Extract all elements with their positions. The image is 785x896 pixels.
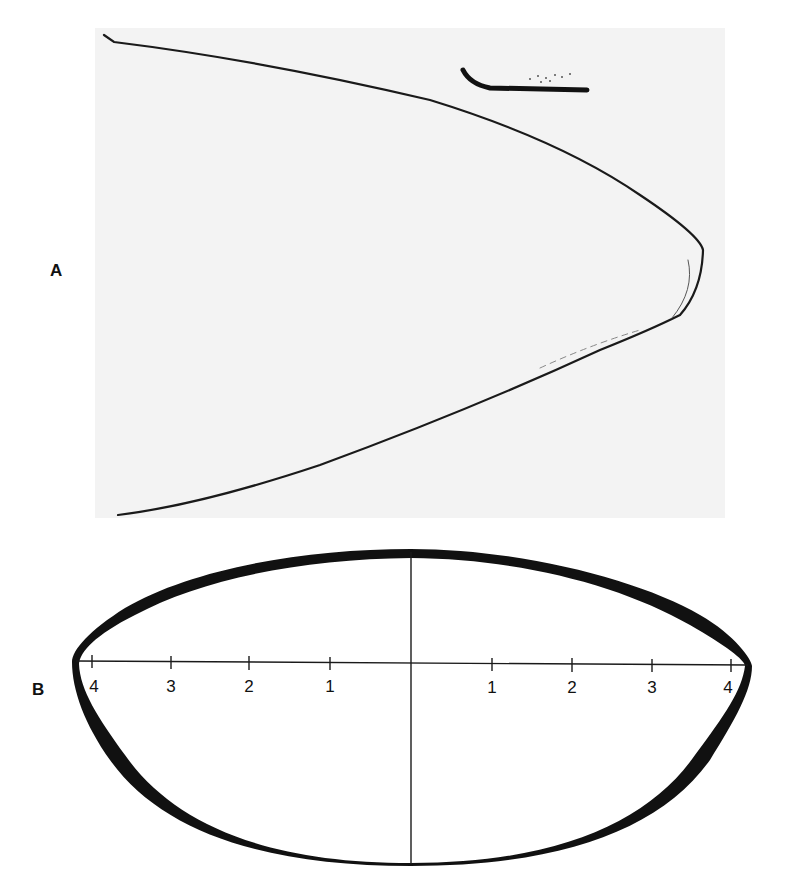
tick-label-left-3: 3 (166, 677, 175, 696)
tick-label-left-4: 4 (89, 677, 98, 696)
tick-label-right-2: 2 (567, 678, 576, 697)
panel-a-mark (463, 70, 587, 90)
tick-label-right-4: 4 (723, 678, 732, 697)
panel-a-mark-speckles (529, 73, 571, 83)
tick-label-left-2: 2 (244, 677, 253, 696)
panel-a-curve (104, 35, 703, 515)
panel-b-outline (72, 549, 752, 866)
tick-label-right-3: 3 (647, 678, 656, 697)
tick-label-left-1: 1 (325, 677, 334, 696)
tick-label-right-1: 1 (487, 678, 496, 697)
figure-drawing: 4 3 2 1 1 2 3 4 (0, 0, 785, 896)
